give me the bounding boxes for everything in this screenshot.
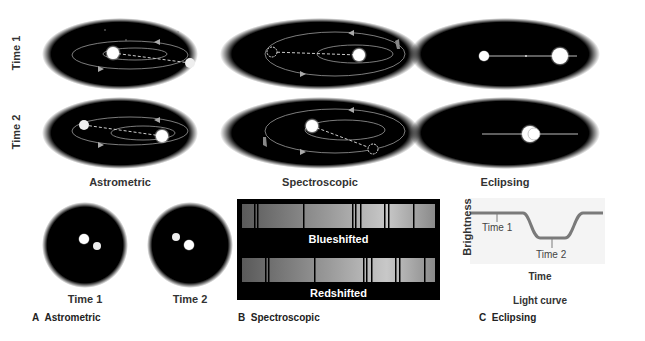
row-label-time2: Time 2 [10,112,22,152]
column-label-eclipsing: Eclipsing [465,176,545,188]
caption-letter: A [32,312,39,323]
panel-a-time2-label: Time 2 [168,293,212,305]
astrometric-time2-panel [42,97,198,169]
panel-b-caption: B Spectroscopic [238,312,320,323]
time-axis-label: Time [515,271,565,282]
redshifted-spectrum [242,258,435,282]
spectrum-box [237,199,440,300]
light-curve-title: Light curve [500,295,580,306]
light-curve-time1-marker: Time 1 [482,222,512,233]
caption-letter: C [479,312,486,323]
column-label-spectroscopic: Spectroscopic [270,176,370,188]
light-curve-time2-marker: Time 2 [536,249,566,260]
row-label-time1: Time 1 [10,33,22,73]
caption-text: Eclipsing [492,312,536,323]
astrometric-view-time1 [42,202,128,288]
spectroscopic-time2-panel [220,97,420,169]
column-label-astrometric: Astrometric [80,176,160,188]
eclipsing-time2-panel [410,97,600,169]
blueshifted-label: Blueshifted [237,233,440,245]
astrometric-view-time2 [147,202,233,288]
blueshifted-spectrum [242,204,435,228]
astrometric-time1-panel [42,18,198,90]
spectroscopic-time1-panel [220,18,420,90]
panel-a-caption: A Astrometric [32,312,101,323]
panel-c-caption: C Eclipsing [479,312,536,323]
caption-text: Astrometric [44,312,100,323]
redshifted-label: Redshifted [237,287,440,299]
panel-a-time1-label: Time 1 [65,293,105,305]
caption-letter: B [238,312,245,323]
eclipsing-time1-panel [410,18,600,90]
brightness-axis-label: Brightness [461,197,473,257]
caption-text: Spectroscopic [251,312,320,323]
